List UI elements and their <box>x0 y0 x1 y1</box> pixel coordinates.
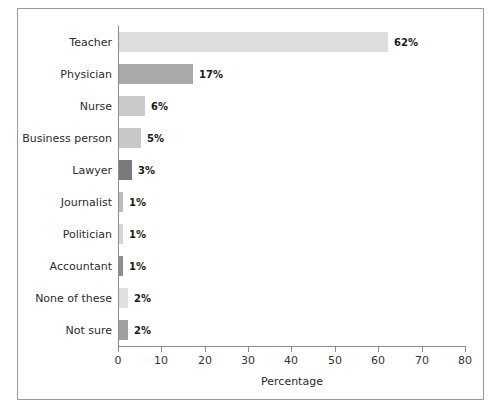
category-label-lawyer: Lawyer <box>0 164 112 177</box>
bar-politician <box>119 224 123 244</box>
bar-journalist <box>119 192 123 212</box>
bar-value-not-sure: 2% <box>134 324 151 337</box>
x-tick-mark-50 <box>335 347 336 352</box>
bar-lawyer <box>119 160 132 180</box>
x-tick-label-80: 80 <box>445 354 485 368</box>
bar-not-sure <box>119 320 128 340</box>
bar-value-accountant: 1% <box>129 260 146 273</box>
category-label-accountant: Accountant <box>0 260 112 273</box>
category-label-teacher: Teacher <box>0 36 112 49</box>
x-tick-label-50: 50 <box>315 354 355 368</box>
x-axis-title: Percentage <box>118 375 466 388</box>
x-tick-mark-10 <box>161 347 162 352</box>
category-label-none-of-these: None of these <box>0 292 112 305</box>
x-tick-label-70: 70 <box>402 354 442 368</box>
bar-teacher <box>119 32 388 52</box>
x-tick-mark-80 <box>465 347 466 352</box>
x-axis-line <box>118 346 466 347</box>
bar-value-politician: 1% <box>129 228 146 241</box>
category-label-nurse: Nurse <box>0 100 112 113</box>
x-tick-mark-30 <box>248 347 249 352</box>
x-tick-label-40: 40 <box>271 354 311 368</box>
x-tick-label-0: 0 <box>98 354 138 368</box>
x-tick-label-30: 30 <box>228 354 268 368</box>
bar-chart-plot-area: Teacher Physician Nurse Business person … <box>0 0 501 410</box>
bar-value-teacher: 62% <box>394 36 418 49</box>
category-label-journalist: Journalist <box>0 196 112 209</box>
x-tick-label-60: 60 <box>358 354 398 368</box>
x-tick-label-10: 10 <box>141 354 181 368</box>
x-tick-mark-20 <box>205 347 206 352</box>
bar-physician <box>119 64 193 84</box>
x-tick-mark-60 <box>378 347 379 352</box>
bar-value-business-person: 5% <box>147 132 164 145</box>
bar-accountant <box>119 256 123 276</box>
bar-value-none-of-these: 2% <box>134 292 151 305</box>
category-label-business-person: Business person <box>0 132 112 145</box>
x-tick-mark-40 <box>291 347 292 352</box>
bar-value-journalist: 1% <box>129 196 146 209</box>
category-label-not-sure: Not sure <box>0 324 112 337</box>
category-label-physician: Physician <box>0 68 112 81</box>
category-label-politician: Politician <box>0 228 112 241</box>
x-tick-mark-0 <box>118 347 119 352</box>
bar-none-of-these <box>119 288 128 308</box>
bar-value-physician: 17% <box>199 68 223 81</box>
figure-canvas: Teacher Physician Nurse Business person … <box>0 0 501 410</box>
bar-value-lawyer: 3% <box>138 164 155 177</box>
x-tick-mark-70 <box>422 347 423 352</box>
bar-nurse <box>119 96 145 116</box>
bar-business-person <box>119 128 141 148</box>
bar-value-nurse: 6% <box>151 100 168 113</box>
x-tick-label-20: 20 <box>185 354 225 368</box>
